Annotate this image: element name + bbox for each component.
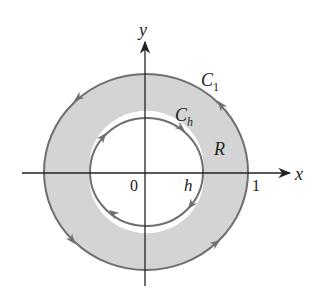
diagram-svg: y x 0 1 C1 Ch R h: [0, 0, 323, 306]
y-axis-label: y: [137, 20, 147, 40]
origin-label: 0: [130, 177, 138, 194]
x-tick-label-1: 1: [252, 177, 260, 194]
x-axis-label: x: [294, 164, 303, 184]
annulus-diagram: y x 0 1 C1 Ch R h: [0, 0, 323, 306]
inner-curve-ch: [90, 118, 203, 226]
region-r: [44, 74, 248, 270]
region-label: R: [213, 139, 225, 159]
inner-orientation-arrows: [97, 122, 197, 219]
inner-radius-label: h: [184, 176, 193, 195]
